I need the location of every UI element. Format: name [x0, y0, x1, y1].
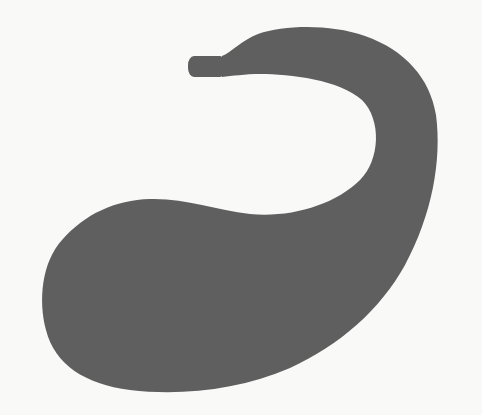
tube-end	[188, 56, 226, 77]
image-canvas	[0, 0, 482, 415]
curved-body	[42, 27, 438, 392]
silhouette-shape	[0, 0, 482, 415]
